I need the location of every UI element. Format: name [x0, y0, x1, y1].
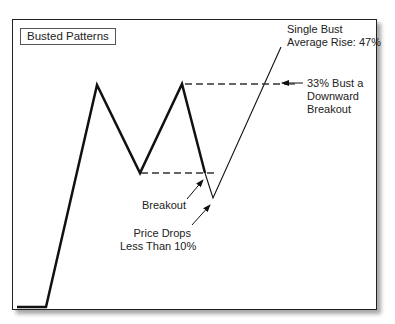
breakout-arrow-icon	[187, 180, 203, 199]
price-drops-arrow-icon	[192, 205, 210, 225]
bust-line1: 33% Bust a	[307, 77, 363, 90]
bust-percentage-label: 33% Bust a Downward Breakout	[307, 77, 363, 116]
price-drops-label: Price Drops	[120, 227, 191, 240]
bust-line2: Downward	[307, 90, 363, 103]
bust-price-line	[205, 47, 281, 198]
diagram-title: Busted Patterns	[20, 28, 116, 45]
single-bust-line1: Single Bust	[287, 23, 381, 36]
single-bust-label: Single Bust Average Rise: 47%	[287, 23, 381, 49]
price-drops-label-2: Less Than 10%	[120, 240, 196, 253]
single-bust-line2: Average Rise: 47%	[287, 36, 381, 49]
price-drops-line2: Less Than 10%	[120, 240, 196, 253]
bust-line3: Breakout	[307, 103, 363, 116]
price-drops-line1: Price Drops	[120, 227, 191, 240]
breakout-label: Breakout	[142, 199, 186, 212]
price-line	[17, 84, 205, 307]
